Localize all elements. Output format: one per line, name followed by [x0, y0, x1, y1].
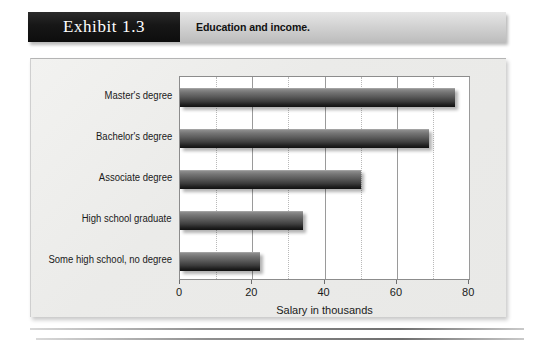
- bar: [180, 211, 303, 230]
- category-label: Master's degree: [104, 90, 172, 101]
- x-tick-label: 60: [390, 286, 402, 298]
- x-tick-mark: [468, 280, 469, 284]
- x-tick-label: 0: [176, 286, 182, 298]
- bar: [180, 129, 429, 148]
- x-tick-mark: [179, 280, 180, 284]
- category-label: Associate degree: [99, 172, 172, 183]
- x-tick-label: 40: [317, 286, 329, 298]
- category-label: High school graduate: [82, 213, 172, 224]
- x-tick-mark: [324, 280, 325, 284]
- x-tick-mark: [396, 280, 397, 284]
- exhibit-title: Education and income.: [196, 21, 310, 33]
- x-tick-mark: [251, 280, 252, 284]
- x-tick-label: 80: [462, 286, 474, 298]
- category-label: Some high school, no degree: [48, 254, 172, 265]
- bar: [180, 170, 361, 189]
- gridline-major: [469, 77, 470, 279]
- chart-panel: Master's degreeBachelor's degreeAssociat…: [30, 58, 506, 317]
- exhibit-number-tag: Exhibit 1.3: [28, 12, 180, 42]
- page-divider-rule-bottom: [36, 338, 524, 340]
- page-divider-rule-top: [30, 328, 524, 330]
- x-axis-title: Salary in thousands: [179, 304, 470, 316]
- exhibit-header: Exhibit 1.3 Education and income.: [28, 12, 506, 42]
- exhibit-title-bar: Education and income.: [180, 12, 506, 42]
- plot-area: [179, 76, 470, 280]
- bar: [180, 252, 260, 271]
- x-tick-label: 20: [245, 286, 257, 298]
- bar: [180, 88, 455, 107]
- category-label: Bachelor's degree: [96, 131, 172, 142]
